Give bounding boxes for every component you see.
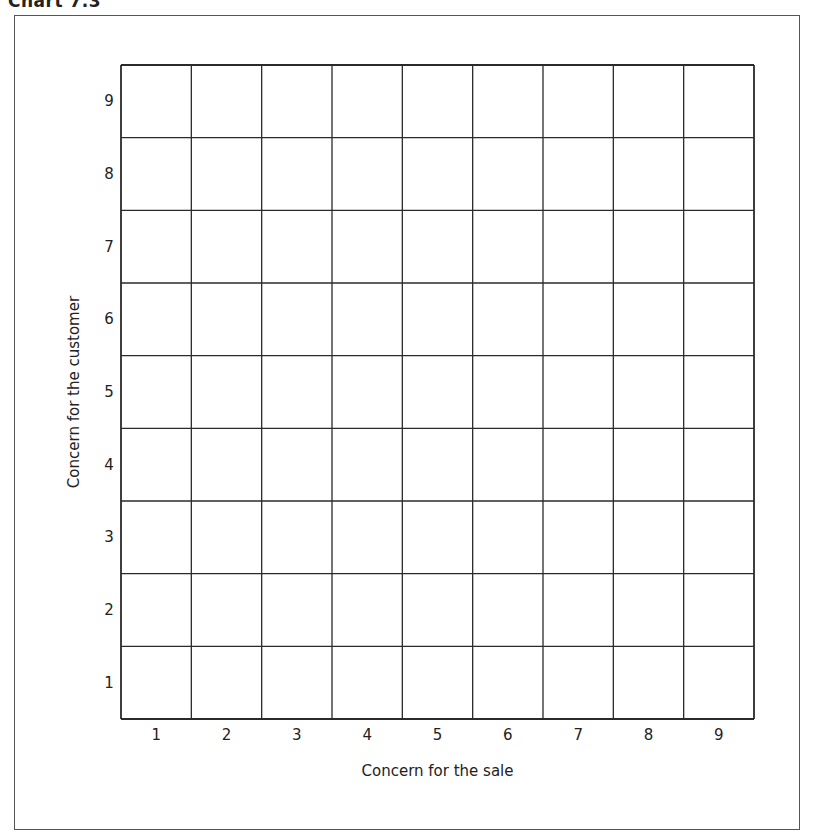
y-tick-label: 7 (99, 238, 119, 256)
x-tick-label: 5 (428, 726, 448, 744)
y-tick-label: 6 (99, 310, 119, 328)
x-tick-label: 1 (146, 726, 166, 744)
x-tick-label: 9 (709, 726, 729, 744)
chart-title: Chart 7.3 (8, 0, 101, 11)
x-tick-label: 8 (639, 726, 659, 744)
x-tick-label: 4 (357, 726, 377, 744)
y-tick-label: 1 (99, 674, 119, 692)
x-tick-label: 7 (568, 726, 588, 744)
x-tick-label: 3 (287, 726, 307, 744)
x-tick-label: 6 (498, 726, 518, 744)
y-tick-label: 3 (99, 528, 119, 546)
y-axis-label: Concern for the customer (65, 192, 83, 592)
x-axis-label: Concern for the sale (121, 762, 754, 780)
grid-lines (121, 65, 754, 719)
y-tick-label: 8 (99, 165, 119, 183)
y-tick-label: 2 (99, 601, 119, 619)
y-tick-label: 9 (99, 92, 119, 110)
y-tick-label: 5 (99, 383, 119, 401)
chart-grid (121, 65, 754, 719)
x-tick-label: 2 (217, 726, 237, 744)
y-tick-label: 4 (99, 456, 119, 474)
